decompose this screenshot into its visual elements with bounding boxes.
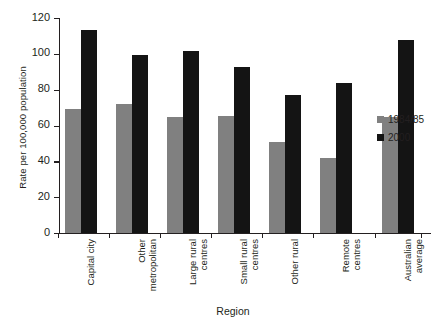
y-tick: 20 — [54, 197, 59, 198]
x-category-label: Australian average — [403, 239, 424, 305]
legend-swatch — [377, 134, 384, 141]
x-tick — [375, 233, 376, 238]
legend-item: 1984/85 — [377, 112, 424, 127]
y-tick-label: 0 — [44, 226, 50, 238]
x-category-label: Capital city — [86, 239, 97, 305]
x-category-label: Other metropolitan — [137, 239, 158, 305]
plot-area: 020406080100120 — [59, 18, 431, 233]
y-tick: 40 — [54, 161, 59, 162]
x-tick — [211, 233, 212, 238]
legend: 1984/852000 — [377, 112, 424, 148]
x-tick — [421, 233, 422, 238]
bar — [65, 109, 81, 233]
bar — [132, 55, 148, 233]
bar — [320, 158, 336, 233]
y-tick-label: 80 — [38, 82, 50, 94]
x-tick — [109, 233, 110, 238]
x-tick — [58, 233, 59, 238]
y-tick-label: 20 — [38, 190, 50, 202]
bar — [285, 95, 301, 233]
bar-chart: Rate per 100,000 population 020406080100… — [0, 0, 442, 327]
legend-swatch — [377, 116, 384, 123]
bar — [234, 67, 250, 233]
x-category-label: Small rural centres — [239, 239, 260, 305]
bar — [218, 116, 234, 233]
y-tick: 60 — [54, 126, 59, 127]
y-tick-label: 60 — [38, 118, 50, 130]
y-tick: 120 — [54, 18, 59, 19]
x-category-label: Large rural centres — [188, 239, 209, 305]
y-tick-label: 120 — [32, 11, 50, 23]
bar — [336, 83, 352, 233]
x-axis-title: Region — [0, 305, 442, 317]
legend-label: 2000 — [388, 132, 410, 143]
bar — [269, 142, 285, 233]
x-tick — [313, 233, 314, 238]
bar — [183, 51, 199, 233]
x-axis-title-text: Region — [216, 305, 249, 317]
y-tick: 100 — [54, 54, 59, 55]
legend-label: 1984/85 — [388, 114, 424, 125]
y-axis-line — [59, 18, 60, 233]
x-category-label: Remote centres — [341, 239, 362, 305]
y-axis-title: Rate per 100,000 population — [17, 48, 28, 208]
legend-item: 2000 — [377, 130, 424, 145]
x-tick — [262, 233, 263, 238]
y-tick-label: 100 — [32, 46, 50, 58]
bar — [81, 30, 97, 233]
bar — [167, 117, 183, 233]
bar — [116, 104, 132, 233]
x-category-label: Other rural — [290, 239, 301, 305]
x-tick — [160, 233, 161, 238]
y-tick: 80 — [54, 90, 59, 91]
y-tick-label: 40 — [38, 154, 50, 166]
